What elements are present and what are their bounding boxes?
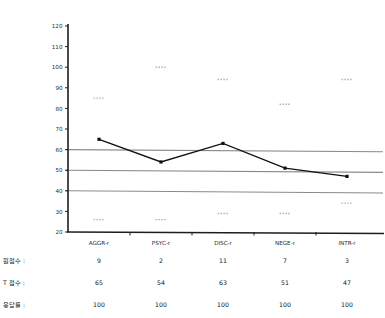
- table-row-label: T 점수 :: [3, 274, 65, 292]
- x-tick-label-PSYC-r: PSYC-r: [152, 240, 171, 246]
- y-tick-label-50: 50: [55, 167, 63, 173]
- x-axis-tick-labels: AGGR-rPSYC-rDISC-rNEGE-rINTR-r: [89, 240, 357, 246]
- table-cell: 100: [141, 296, 181, 314]
- y-tick-label-30: 30: [55, 209, 63, 215]
- y-axis-tick-labels: 2030405060708090100110120: [52, 23, 63, 235]
- y-tick-label-20: 20: [55, 229, 63, 235]
- table-row-label: 원점수 :: [3, 252, 65, 270]
- table-cell: 9: [79, 252, 119, 270]
- x-tick-label-AGGR-r: AGGR-r: [89, 240, 110, 246]
- table-cell: 65: [79, 274, 119, 292]
- score-table: 원점수 :921173T 점수 :6554635147응답률 :10010010…: [0, 250, 385, 318]
- line-chart-svg: 2030405060708090100110120 AGGR-rPSYC-rDI…: [0, 0, 385, 250]
- table-cell: 3: [327, 252, 367, 270]
- profile-chart-page: 2030405060708090100110120 AGGR-rPSYC-rDI…: [0, 0, 385, 318]
- table-cell: 7: [265, 252, 305, 270]
- reference-line-40: [66, 191, 383, 193]
- reference-line-60: [66, 150, 383, 152]
- table-cell: 100: [79, 296, 119, 314]
- y-tick-label-60: 60: [55, 147, 63, 153]
- y-tick-label-70: 70: [55, 126, 63, 132]
- table-cell: 11: [203, 252, 243, 270]
- table-cell: 63: [203, 274, 243, 292]
- table-cell: 54: [141, 274, 181, 292]
- x-axis-line: [67, 232, 384, 234]
- table-row: T 점수 :6554635147: [0, 274, 385, 292]
- chart-container: 2030405060708090100110120 AGGR-rPSYC-rDI…: [0, 0, 385, 250]
- x-tick-label-DISC-r: DISC-r: [214, 240, 232, 246]
- data-point-NEGE-r[interactable]: [283, 167, 286, 170]
- x-tick-label-NEGE-r: NEGE-r: [275, 240, 296, 246]
- y-tick-label-40: 40: [55, 188, 63, 194]
- table-row: 응답률 :100100100100100: [0, 296, 385, 314]
- table-cell: 47: [327, 274, 367, 292]
- table-cell: 100: [265, 296, 305, 314]
- table-cell: 100: [327, 296, 367, 314]
- reference-line-50: [66, 170, 383, 172]
- x-tick-label-INTR-r: INTR-r: [338, 240, 356, 246]
- data-point-DISC-r[interactable]: [221, 142, 224, 145]
- data-point-PSYC-r[interactable]: [159, 160, 162, 163]
- y-tick-label-100: 100: [52, 64, 63, 70]
- table-row-label: 응답률 :: [3, 296, 65, 314]
- table-cell: 2: [141, 252, 181, 270]
- table-cell: 100: [203, 296, 243, 314]
- table-cell: 51: [265, 274, 305, 292]
- y-tick-label-80: 80: [55, 106, 63, 112]
- table-row: 원점수 :921173: [0, 252, 385, 270]
- data-point-AGGR-r[interactable]: [97, 138, 100, 141]
- axes-group: [65, 24, 384, 236]
- y-tick-label-110: 110: [52, 44, 63, 50]
- data-point-INTR-r[interactable]: [345, 175, 348, 178]
- y-tick-label-120: 120: [52, 23, 63, 29]
- reference-lines-group: [66, 150, 383, 193]
- y-tick-label-90: 90: [55, 85, 63, 91]
